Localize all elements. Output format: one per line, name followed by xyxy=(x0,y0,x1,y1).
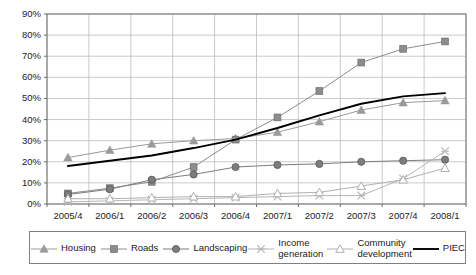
y-axis-tick-label: 90% xyxy=(0,9,41,19)
data-point-marker xyxy=(400,45,407,52)
data-point-marker xyxy=(274,114,281,121)
legend-item-landscaping[interactable]: Landscaping xyxy=(162,232,247,265)
data-point-marker xyxy=(190,164,197,171)
legend-item-piec[interactable]: PIEC xyxy=(412,232,467,265)
y-axis-tick-label: 30% xyxy=(0,136,41,146)
legend-item-income-generation[interactable]: Income generation xyxy=(247,232,326,265)
x-axis-tick-label: 2007/4 xyxy=(382,211,424,221)
solid-line-marker xyxy=(412,242,440,256)
cross-star-marker xyxy=(247,242,275,256)
y-axis-tick-label: 80% xyxy=(0,30,41,40)
data-point-marker xyxy=(258,245,266,253)
legend-item-community-development[interactable]: Community development xyxy=(326,232,411,265)
data-point-marker xyxy=(274,161,281,168)
data-point-marker xyxy=(358,158,365,165)
data-point-marker xyxy=(358,59,365,66)
chart-legend: HousingRoadsLandscapingIncome generation… xyxy=(29,231,466,264)
legend-item-label: Landscaping xyxy=(193,243,247,254)
x-axis-tick-label: 2007/3 xyxy=(340,211,382,221)
data-point-marker xyxy=(441,156,448,163)
x-axis-tick-label: 2007/1 xyxy=(257,211,299,221)
x-axis-tick-label: 2008/1 xyxy=(424,211,466,221)
chart-container: HousingRoadsLandscapingIncome generation… xyxy=(0,0,476,275)
y-axis-tick-label: 20% xyxy=(0,157,41,167)
legend-item-label: Community development xyxy=(357,238,411,259)
x-axis-tick-label: 2006/3 xyxy=(173,211,215,221)
data-point-marker xyxy=(400,157,407,164)
x-axis-tick-label: 2006/1 xyxy=(89,211,131,221)
data-point-marker xyxy=(173,245,180,252)
x-axis-tick-label: 2006/4 xyxy=(215,211,257,221)
y-axis-tick-label: 70% xyxy=(0,51,41,61)
data-point-marker xyxy=(442,38,449,45)
data-point-marker xyxy=(106,186,113,193)
data-point-marker xyxy=(316,160,323,167)
y-axis-tick-label: 60% xyxy=(0,72,41,82)
x-axis-tick-label: 2005/4 xyxy=(47,211,89,221)
y-axis-tick-label: 50% xyxy=(0,93,41,103)
filled-triangle-marker xyxy=(30,242,58,256)
data-point-marker xyxy=(110,245,117,252)
data-point-marker xyxy=(232,163,239,170)
filled-square-marker xyxy=(100,242,128,256)
legend-item-housing[interactable]: Housing xyxy=(30,232,100,265)
legend-item-label: Roads xyxy=(131,243,158,254)
y-axis-tick-label: 10% xyxy=(0,178,41,188)
y-axis-tick-label: 40% xyxy=(0,115,41,125)
x-axis-tick-label: 2007/2 xyxy=(298,211,340,221)
y-axis-tick-label: 0% xyxy=(0,199,41,209)
legend-item-label: Housing xyxy=(61,243,96,254)
data-point-marker xyxy=(190,171,197,178)
legend-item-roads[interactable]: Roads xyxy=(100,232,163,265)
data-point-marker xyxy=(148,176,155,183)
open-triangle-marker xyxy=(326,242,354,256)
legend-item-label: PIEC xyxy=(443,243,465,254)
x-axis-tick-label: 2006/2 xyxy=(131,211,173,221)
legend-items-row: HousingRoadsLandscapingIncome generation… xyxy=(30,232,467,265)
data-point-marker xyxy=(316,88,323,95)
filled-circle-marker xyxy=(162,242,190,256)
legend-item-label: Income generation xyxy=(278,238,323,259)
